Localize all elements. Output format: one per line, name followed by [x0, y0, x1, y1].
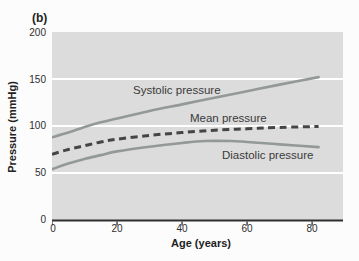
- x-axis-title: Age (years): [146, 237, 256, 249]
- plot-area: [52, 32, 347, 228]
- x-tick-0: 0: [38, 222, 68, 235]
- x-tick-40: 40: [167, 222, 197, 235]
- systolic-curve-label: Systolic pressure: [133, 84, 221, 96]
- y-tick-50: 50: [16, 166, 46, 179]
- panel-label: (b): [32, 11, 47, 25]
- pressure-age-chart: (b) Pressure (mmHg) 200 150 100 50 0 Sys…: [0, 0, 359, 261]
- y-tick-100: 100: [16, 119, 46, 132]
- y-tick-200: 200: [16, 26, 46, 39]
- y-tick-150: 150: [16, 73, 46, 86]
- x-tick-80: 80: [297, 222, 327, 235]
- mean-curve-label: Mean pressure: [190, 112, 267, 124]
- diastolic-curve-label: Diastolic pressure: [222, 149, 313, 161]
- x-tick-60: 60: [232, 222, 262, 235]
- x-tick-20: 20: [102, 222, 132, 235]
